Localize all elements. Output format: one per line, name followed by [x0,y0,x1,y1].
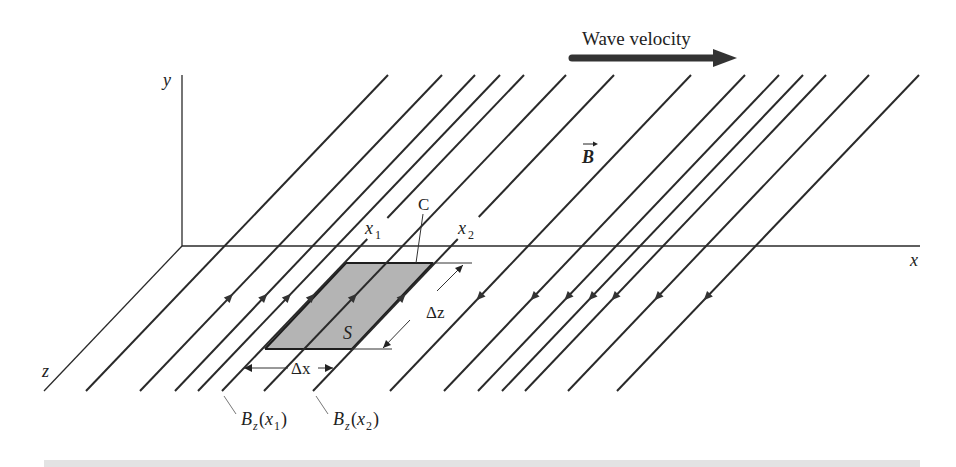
bz-x1-label: B z ( x 1 ) [241,409,287,433]
delta-x-label: Δx [291,359,311,378]
field-lines [86,75,919,391]
svg-text:2: 2 [366,419,372,433]
bz-x2-leader-line [316,396,328,414]
svg-text:1: 1 [375,228,381,242]
bz-x2-label: B z ( x 2 ) [333,409,379,433]
y-axis-label: y [161,70,171,90]
svg-text:B: B [581,147,594,167]
svg-text:z: z [344,419,350,433]
field-line [568,75,869,391]
field-line [264,75,566,391]
svg-text:1: 1 [274,419,280,433]
axes [44,75,920,391]
wave-velocity-label: Wave velocity [582,28,691,49]
svg-text:2: 2 [468,228,474,242]
field-line [478,75,779,391]
wave-velocity-arrow-icon [572,49,737,67]
svg-text:x: x [457,218,466,238]
field-line [444,75,745,391]
field-line [502,75,803,391]
field-line [390,75,691,391]
delta-z-label: Δz [426,303,445,322]
z-axis-label: z [41,361,49,381]
svg-text:B: B [333,409,344,429]
b-vector-label: B [581,142,598,168]
svg-text:): ) [373,409,379,430]
bottom-bar [44,460,920,467]
x-axis-label: x [909,250,918,270]
field-line [617,75,919,391]
x2-label: x 2 [457,218,474,242]
bz-x1-leader-line [224,396,236,414]
svg-text:): ) [281,409,287,430]
contour-label: C [418,195,429,214]
svg-text:x: x [264,409,273,429]
svg-text:z: z [252,419,258,433]
surface-label: S [343,323,352,343]
svg-text:x: x [356,409,365,429]
c-leader-line [416,214,423,263]
svg-text:x: x [364,218,373,238]
svg-text:B: B [241,409,252,429]
wave-field-diagram: y x z S C Δz Δx x 1 x 2 [0,0,956,467]
